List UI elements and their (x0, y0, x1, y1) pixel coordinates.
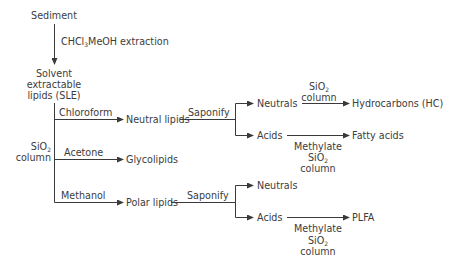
label-fa-sio2: SiO2 (288, 152, 348, 163)
label-fa-column: column (288, 163, 348, 174)
fa-sio2-text: SiO (308, 152, 324, 163)
label-extraction: CHCl3MeOH extraction (61, 36, 169, 47)
label-acetone: Acetone (64, 147, 103, 158)
node-neutrals-bottom: Neutrals (257, 180, 297, 191)
label-fa-methylate: Methylate (288, 141, 348, 152)
label-methanol: Methanol (61, 190, 106, 201)
node-plfa: PLFA (352, 212, 374, 223)
label-hc-sio2: SiO2 (294, 81, 344, 92)
extraction-rest: MeOH extraction (88, 36, 169, 47)
node-polar-lipids: Polar lipids (126, 197, 178, 208)
node-hydrocarbons: Hydrocarbons (HC) (352, 98, 443, 109)
plfa-sio2-text: SiO (308, 235, 324, 246)
node-sle-line2: extractable (4, 79, 104, 90)
extraction-chem: CHCl (61, 36, 84, 47)
node-neutral-lipids: Neutral lipids (126, 114, 190, 125)
label-plfa-methylate: Methylate (288, 223, 348, 234)
hc-sio2-text: SiO (309, 81, 325, 92)
node-sle-line1: Solvent (4, 68, 104, 79)
label-sio2-left-column: column (0, 152, 51, 163)
node-fatty-acids: Fatty acids (352, 130, 404, 141)
label-saponify-top: Saponify (188, 107, 230, 118)
node-neutrals-top: Neutrals (257, 98, 297, 109)
node-acids-top: Acids (257, 130, 282, 141)
label-sio2-left: SiO2 (0, 141, 51, 152)
label-saponify-bottom: Saponify (187, 190, 229, 201)
label-plfa-sio2: SiO2 (288, 235, 348, 246)
label-plfa-column: column (288, 246, 348, 257)
node-acids-bottom: Acids (257, 212, 282, 223)
node-sediment: Sediment (24, 10, 84, 21)
label-hc-column: column (294, 92, 344, 103)
sio2-left-text: SiO (31, 141, 47, 152)
label-chloroform: Chloroform (59, 107, 112, 118)
node-glycolipids: Glycolipids (126, 154, 178, 165)
node-sle-line3: lipids (SLE) (4, 90, 104, 101)
